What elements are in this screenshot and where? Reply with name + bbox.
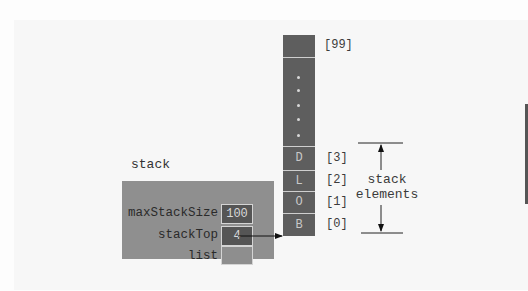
- bracket-label-line1: stack: [354, 172, 420, 187]
- diagram-arrows: [0, 0, 528, 291]
- bracket-label-line2: elements: [354, 187, 420, 202]
- stack-elements-label: stack elements: [354, 172, 420, 202]
